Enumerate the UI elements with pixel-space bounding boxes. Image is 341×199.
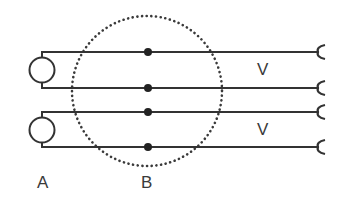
label-v-bottom: V	[257, 120, 269, 139]
circuit-diagram: V V A B	[0, 0, 341, 199]
cup-connector-3-icon	[318, 105, 325, 119]
source-1	[30, 52, 55, 88]
source-1-circle-icon	[30, 58, 55, 83]
junction-node-2	[144, 84, 152, 92]
label-v-top: V	[257, 60, 269, 79]
junction-node-3	[144, 108, 152, 116]
junction-node-4	[144, 143, 152, 151]
cup-connector-2-icon	[318, 81, 325, 95]
label-a: A	[37, 173, 49, 192]
junction-node-1	[144, 48, 152, 56]
cup-connector-1-icon	[318, 45, 325, 59]
source-2	[30, 112, 55, 147]
source-2-circle-icon	[30, 118, 55, 143]
cup-connector-4-icon	[318, 140, 325, 154]
label-b: B	[141, 173, 152, 192]
